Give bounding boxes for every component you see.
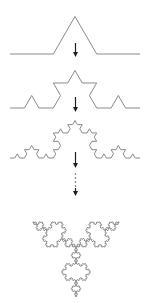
down-arrow-4 [73,188,78,196]
koch-figure [0,0,154,303]
koch-diagram [0,0,154,303]
continuation-dots [75,173,77,187]
down-arrow-3 [73,152,78,168]
arrowhead-icon [73,163,78,168]
arrowhead-icon [73,52,78,57]
arrowhead-icon [73,107,78,112]
koch-snowflake [33,222,120,297]
arrowhead-icon [73,191,78,196]
down-arrow-1 [73,43,78,57]
down-arrow-2 [73,97,78,112]
